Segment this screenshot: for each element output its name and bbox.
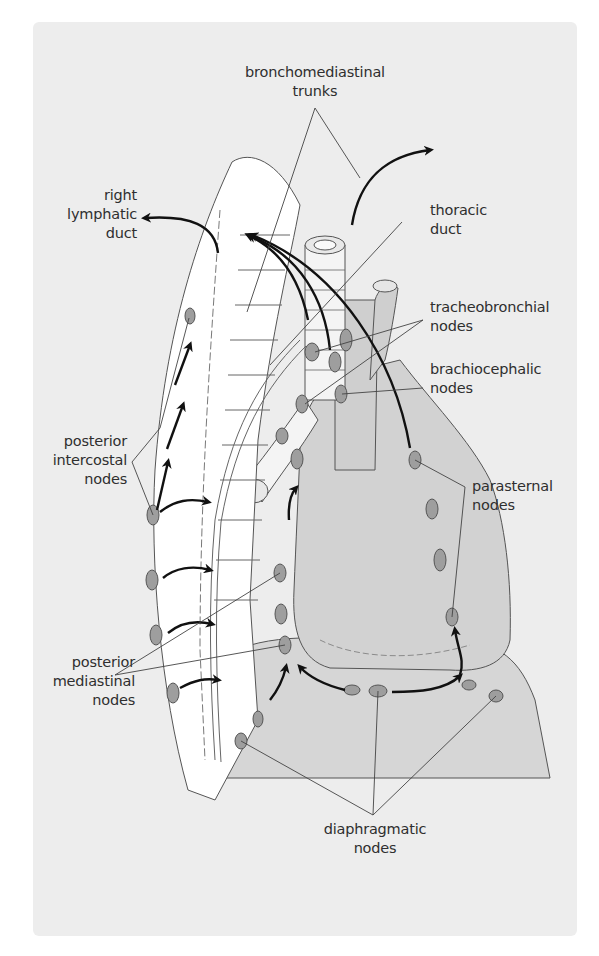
label-line: tracheobronchial	[430, 298, 549, 317]
label-line: nodes	[430, 379, 541, 398]
label-line: nodes	[30, 691, 135, 710]
label-line: parasternal	[472, 477, 553, 496]
label-line: bronchomediastinal	[225, 63, 405, 82]
label-thoracic-duct: thoracic duct	[430, 201, 487, 239]
label-line: mediastinal	[30, 672, 135, 691]
label-right-lymphatic-duct: right lymphatic duct	[60, 186, 137, 243]
label-line: brachiocephalic	[430, 360, 541, 379]
label-line: lymphatic	[60, 205, 137, 224]
label-line: nodes	[305, 839, 445, 858]
label-line: posterior	[40, 432, 127, 451]
label-line: intercostal	[40, 451, 127, 470]
label-line: posterior	[30, 653, 135, 672]
label-line: duct	[60, 224, 137, 243]
label-brachiocephalic-nodes: brachiocephalic nodes	[430, 360, 541, 398]
label-line: trunks	[225, 82, 405, 101]
label-posterior-intercostal-nodes: posterior intercostal nodes	[40, 432, 127, 489]
label-line: thoracic	[430, 201, 487, 220]
label-line: nodes	[40, 470, 127, 489]
label-bronchomediastinal-trunks: bronchomediastinal trunks	[225, 63, 405, 101]
label-tracheobronchial-nodes: tracheobronchial nodes	[430, 298, 549, 336]
label-parasternal-nodes: parasternal nodes	[472, 477, 553, 515]
label-posterior-mediastinal-nodes: posterior mediastinal nodes	[30, 653, 135, 710]
label-line: duct	[430, 220, 487, 239]
label-line: nodes	[430, 317, 549, 336]
label-line: right	[60, 186, 137, 205]
label-line: nodes	[472, 496, 553, 515]
label-diaphragmatic-nodes: diaphragmatic nodes	[305, 820, 445, 858]
label-line: diaphragmatic	[305, 820, 445, 839]
heart-shape	[294, 360, 511, 670]
